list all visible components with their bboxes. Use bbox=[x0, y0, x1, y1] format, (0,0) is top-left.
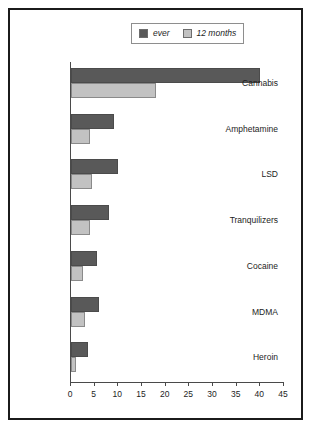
x-axis-tick bbox=[283, 382, 284, 386]
bar[interactable] bbox=[71, 266, 83, 281]
y-axis-category-label: Heroin bbox=[253, 352, 278, 362]
bar[interactable] bbox=[71, 342, 88, 357]
legend-label: 12 months bbox=[197, 29, 237, 38]
x-axis-tick-label: 15 bbox=[136, 389, 145, 399]
legend-label: ever bbox=[153, 29, 170, 38]
bar-group: Cannabis bbox=[70, 68, 283, 98]
x-axis-tick bbox=[188, 382, 189, 386]
bar-group: Heroin bbox=[70, 342, 283, 372]
bar[interactable] bbox=[71, 251, 97, 266]
x-axis-tick-label: 0 bbox=[68, 389, 73, 399]
y-axis-category-label: Amphetamine bbox=[226, 124, 278, 134]
bar[interactable] bbox=[71, 357, 76, 372]
bar[interactable] bbox=[71, 114, 114, 129]
bar[interactable] bbox=[71, 220, 90, 235]
y-axis-category-label: Cocaine bbox=[247, 261, 278, 271]
legend-entry[interactable]: ever bbox=[139, 29, 170, 38]
y-axis-category-label: Tranquilizers bbox=[230, 215, 278, 225]
x-axis-tick-label: 40 bbox=[255, 389, 264, 399]
bar[interactable] bbox=[71, 205, 109, 220]
x-axis-line bbox=[70, 382, 283, 383]
bar[interactable] bbox=[71, 83, 156, 98]
x-axis-tick-label: 10 bbox=[113, 389, 122, 399]
legend-swatch-icon bbox=[139, 29, 148, 38]
x-axis-tick bbox=[259, 382, 260, 386]
plot-area: 051015202530354045CannabisAmphetamineLSD… bbox=[70, 62, 283, 382]
x-axis-tick-label: 20 bbox=[160, 389, 169, 399]
x-axis-tick bbox=[236, 382, 237, 386]
x-axis-tick bbox=[70, 382, 71, 386]
bar[interactable] bbox=[71, 129, 90, 144]
x-axis-tick-label: 30 bbox=[207, 389, 216, 399]
bar-group: LSD bbox=[70, 159, 283, 189]
x-axis-tick-label: 45 bbox=[278, 389, 287, 399]
bar-group: MDMA bbox=[70, 297, 283, 327]
legend-entry[interactable]: 12 months bbox=[183, 29, 237, 38]
bar[interactable] bbox=[71, 174, 92, 189]
x-axis-tick-label: 25 bbox=[184, 389, 193, 399]
y-axis-category-label: LSD bbox=[261, 169, 278, 179]
chart-legend: ever12 months bbox=[131, 23, 244, 44]
bar[interactable] bbox=[71, 159, 118, 174]
x-axis-tick bbox=[141, 382, 142, 386]
x-axis-tick bbox=[165, 382, 166, 386]
bar-group: Tranquilizers bbox=[70, 205, 283, 235]
x-axis-tick bbox=[212, 382, 213, 386]
y-axis-category-label: Cannabis bbox=[242, 78, 278, 88]
legend-swatch-icon bbox=[183, 29, 192, 38]
x-axis-tick-label: 5 bbox=[91, 389, 96, 399]
y-axis-category-label: MDMA bbox=[252, 307, 278, 317]
x-axis-tick-label: 35 bbox=[231, 389, 240, 399]
x-axis-tick bbox=[117, 382, 118, 386]
bar[interactable] bbox=[71, 68, 260, 83]
bar-group: Cocaine bbox=[70, 251, 283, 281]
chart-figure: ever12 months 051015202530354045Cannabis… bbox=[8, 8, 303, 420]
x-axis-tick bbox=[94, 382, 95, 386]
bar[interactable] bbox=[71, 312, 85, 327]
bar-group: Amphetamine bbox=[70, 114, 283, 144]
bar[interactable] bbox=[71, 297, 99, 312]
